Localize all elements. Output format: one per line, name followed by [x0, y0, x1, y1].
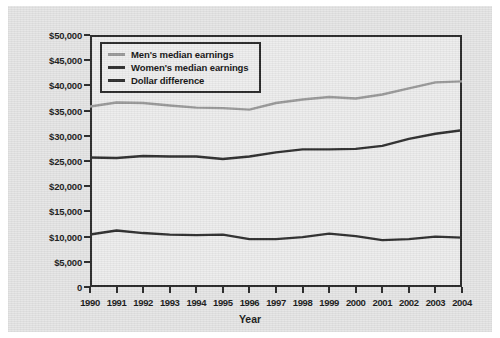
x-axis-tick-label: 1990 [80, 297, 100, 308]
x-axis-tick-label: 1998 [293, 297, 313, 308]
x-axis-tick-label: 1996 [240, 297, 260, 308]
x-axis-tick-label: 2003 [426, 297, 446, 308]
y-axis-tick-label: $35,000 [49, 105, 82, 116]
chart-legend: Men's median earnings Women's median ear… [100, 42, 261, 93]
y-axis-tick-label: 0 [77, 282, 82, 293]
legend-item: Women's median earnings [108, 61, 249, 74]
x-axis-tick-mark [355, 287, 357, 293]
data-line [90, 231, 462, 241]
x-axis-tick-mark [248, 287, 250, 293]
y-axis-tick-mark [84, 59, 90, 61]
data-line [90, 130, 462, 159]
x-axis-tick-label: 1997 [266, 297, 286, 308]
y-axis-tick-mark [84, 261, 90, 263]
x-axis-tick-label: 2004 [452, 297, 472, 308]
y-axis-tick-mark [84, 185, 90, 187]
x-axis-tick-mark [461, 287, 463, 293]
x-axis-tick-mark [195, 287, 197, 293]
x-axis-tick-mark [169, 287, 171, 293]
x-axis-tick-mark [89, 287, 91, 293]
y-axis-tick-mark [84, 160, 90, 162]
x-axis-tick-mark [275, 287, 277, 293]
legend-label: Dollar difference [131, 75, 204, 86]
y-axis-tick-label: $15,000 [49, 206, 82, 217]
x-axis-tick-mark [302, 287, 304, 293]
legend-item: Men's median earnings [108, 48, 249, 61]
y-axis-tick-label: $20,000 [49, 181, 82, 192]
x-axis-tick-mark [328, 287, 330, 293]
x-axis-tick-label: 1995 [213, 297, 233, 308]
y-axis-tick-label: $30,000 [49, 130, 82, 141]
y-axis-tick-mark [84, 110, 90, 112]
x-axis-tick-label: 2002 [399, 297, 419, 308]
legend-swatch-mens-icon [108, 53, 125, 56]
y-axis-labels: $50,000$45,000$40,000$35,000$30,000$25,0… [8, 6, 82, 332]
y-axis-tick-mark [84, 84, 90, 86]
y-axis-tick-label: $25,000 [49, 156, 82, 167]
x-axis-tick-label: 1991 [107, 297, 127, 308]
legend-item: Dollar difference [108, 74, 249, 87]
x-axis-tick-label: 2000 [346, 297, 366, 308]
x-axis-tick-mark [381, 287, 383, 293]
y-axis-tick-label: $10,000 [49, 231, 82, 242]
legend-label: Women's median earnings [131, 62, 249, 73]
y-axis-tick-mark [84, 34, 90, 36]
x-axis-tick-label: 2001 [373, 297, 393, 308]
y-axis-tick-label: $5,000 [54, 256, 82, 267]
y-axis-tick-mark [84, 210, 90, 212]
x-axis-tick-label: 1992 [133, 297, 153, 308]
x-axis-tick-label: 1993 [160, 297, 180, 308]
x-axis-tick-mark [116, 287, 118, 293]
y-axis-tick-label: $45,000 [49, 55, 82, 66]
x-axis-tick-label: 1999 [319, 297, 339, 308]
x-axis-tick-label: 1994 [187, 297, 207, 308]
y-axis-tick-mark [84, 236, 90, 238]
legend-label: Men's median earnings [131, 49, 234, 60]
x-axis-title: Year [8, 313, 492, 325]
x-axis-tick-mark [222, 287, 224, 293]
legend-swatch-difference-icon [108, 79, 125, 82]
x-axis-tick-mark [408, 287, 410, 293]
y-axis-tick-label: $40,000 [49, 80, 82, 91]
y-axis-tick-label: $50,000 [49, 30, 82, 41]
x-axis-tick-mark [142, 287, 144, 293]
x-axis-tick-mark [434, 287, 436, 293]
y-axis-tick-mark [84, 135, 90, 137]
legend-swatch-womens-icon [108, 66, 125, 69]
chart-figure: $50,000$45,000$40,000$35,000$30,000$25,0… [8, 6, 492, 332]
